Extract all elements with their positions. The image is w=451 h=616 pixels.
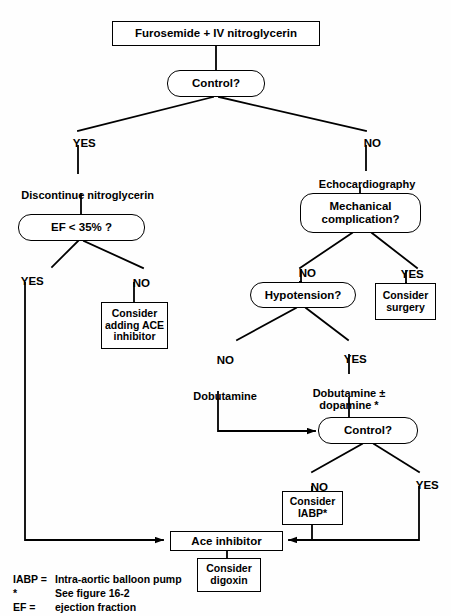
legend-text-asterisk: See figure 16-2 [55,586,130,600]
legend-text-iabp: Intra-aortic balloon pump [55,572,182,586]
label-no-mechanical-text: NO [299,267,316,279]
legend-row: EF = ejection fraction [13,600,182,614]
node-ef[interactable]: EF < 35% ? [18,214,145,241]
label-yes-top: YES [55,124,101,164]
node-ace-inhibitor-label: Ace inhibitor [191,535,261,548]
node-furosemide-label: Furosemide + IV nitroglycerin [135,27,297,40]
label-yes-ef-text: YES [21,275,44,287]
node-ef-label: EF < 35% ? [51,221,112,234]
legend-key-ef: EF = [13,600,55,614]
legend-row: IABP = Intra-aortic balloon pump [13,572,182,586]
legend: IABP = Intra-aortic balloon pump * See f… [13,572,182,615]
legend-key-iabp: IABP = [13,572,55,586]
label-no-ef: NO [112,264,158,304]
node-consider-ace-label: Consider adding ACE inhibitor [105,308,164,343]
node-furosemide[interactable]: Furosemide + IV nitroglycerin [112,21,320,46]
legend-row: * See figure 16-2 [13,586,182,600]
node-consider-digoxin[interactable]: Consider digoxin [197,558,261,592]
label-no-control-bottom: NO [290,468,336,508]
label-echocardiography-text: Echocardiography [319,178,416,190]
node-mechanical-complication-label: Mechanical complication? [322,200,400,226]
label-discontinue-nitroglycerin: Discontinue nitroglycerin [9,176,154,214]
label-yes-control-bottom-text: YES [416,479,439,491]
label-dobutamine: Dobutamine [178,377,260,415]
label-no-control-bottom-text: NO [311,481,328,493]
label-no-top-text: NO [364,137,381,149]
label-echocardiography: Echocardiography [302,165,420,203]
legend-key-asterisk: * [13,586,55,600]
flowchart-page: Furosemide + IV nitroglycerin Control? E… [0,0,451,616]
node-control-top-label: Control? [192,77,240,90]
label-dobutamine-dopamine: Dobutamine ± dopamine * [297,374,401,412]
node-consider-adding-ace-inhibitor[interactable]: Consider adding ACE inhibitor [101,302,168,349]
label-yes-mechanical: YES [383,255,429,295]
label-no-mechanical: NO [278,254,324,294]
label-dobutamine-text: Dobutamine [193,390,257,402]
legend-text-ef: ejection fraction [55,600,136,614]
label-yes-control-bottom: YES [398,466,444,506]
label-no-ef-text: NO [133,277,150,289]
edge-hypo-yes [306,308,348,340]
label-dobutamine-dopamine-text: Dobutamine ± dopamine * [313,387,386,412]
node-ace-inhibitor[interactable]: Ace inhibitor [170,531,283,551]
label-yes-mechanical-text: YES [401,268,424,280]
node-control-bottom-label: Control? [344,424,392,437]
label-yes-top-text: YES [73,137,96,149]
node-control-bottom[interactable]: Control? [318,417,418,444]
node-consider-digoxin-label: Consider digoxin [206,563,252,587]
label-no-top: NO [343,124,389,164]
edge-ef-yes [52,241,78,267]
node-control-top[interactable]: Control? [167,70,265,97]
label-no-hypotension-text: NO [217,354,234,366]
label-yes-hypotension-text: YES [344,353,367,365]
label-discontinue-text: Discontinue nitroglycerin [21,189,154,201]
edge-hypo-no [237,308,296,340]
label-yes-ef: YES [3,262,49,302]
label-no-hypotension: NO [196,341,242,381]
